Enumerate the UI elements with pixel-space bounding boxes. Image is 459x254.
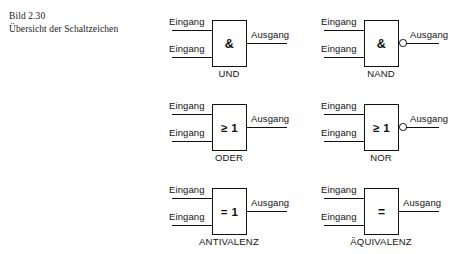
input-label-1: Eingang (321, 16, 357, 27)
input-label-2: Eingang (321, 127, 357, 138)
gate-symbol: ≥ 1 (213, 105, 246, 150)
output-wire (247, 211, 287, 212)
gate-body: ≥ 1 (212, 104, 247, 151)
gate-nand: Eingang Eingang & Ausgang NAND (304, 2, 454, 86)
gate-name-label: ODER (152, 152, 307, 163)
gate-symbol: & (213, 21, 246, 66)
input-wire-2 (324, 225, 364, 226)
input-wire-2 (172, 225, 212, 226)
input-label-1: Eingang (169, 184, 205, 195)
caption-line-title: Übersicht der Schaltzeichen (9, 23, 154, 36)
input-label-2: Eingang (169, 127, 205, 138)
input-label-2: Eingang (321, 43, 357, 54)
caption-line-number: Bild 2.30 (9, 10, 154, 23)
input-label-1: Eingang (321, 184, 357, 195)
input-label-2: Eingang (321, 211, 357, 222)
input-label-2: Eingang (169, 211, 205, 222)
gate-body: & (364, 20, 399, 67)
gate-oder: Eingang Eingang ≥ 1 Ausgang ODER (152, 86, 302, 170)
gate-nor: Eingang Eingang ≥ 1 Ausgang NOR (304, 86, 454, 170)
output-label: Ausgang (251, 29, 289, 40)
output-label: Ausgang (410, 113, 448, 124)
input-wire-1 (172, 30, 212, 31)
output-label: Ausgang (403, 197, 441, 208)
gate-symbol: & (365, 21, 398, 66)
input-wire-1 (172, 198, 212, 199)
input-wire-1 (172, 114, 212, 115)
gate-name-label: NOR (304, 152, 459, 163)
input-label-1: Eingang (169, 16, 205, 27)
gate-body: & (212, 20, 247, 67)
gate-symbol: = 1 (213, 189, 246, 234)
input-label-1: Eingang (321, 100, 357, 111)
input-label-2: Eingang (169, 43, 205, 54)
gate-symbol: = (365, 189, 398, 234)
gate-name-label: UND (152, 68, 307, 79)
gate-aequivalenz: Eingang Eingang = Ausgang ÄQUIVALENZ (304, 170, 454, 254)
input-wire-2 (172, 141, 212, 142)
output-label: Ausgang (410, 29, 448, 40)
gate-name-label: NAND (304, 68, 459, 79)
input-wire-2 (172, 57, 212, 58)
gate-antivalenz: Eingang Eingang = 1 Ausgang ANTIVALENZ (152, 170, 302, 254)
input-wire-2 (324, 141, 364, 142)
output-label: Ausgang (251, 197, 289, 208)
gate-body: = (364, 188, 399, 235)
figure-caption: Bild 2.30 Übersicht der Schaltzeichen (9, 10, 154, 35)
output-label: Ausgang (251, 113, 289, 124)
input-label-1: Eingang (169, 100, 205, 111)
gate-body: ≥ 1 (364, 104, 399, 151)
input-wire-2 (324, 57, 364, 58)
output-wire (406, 43, 439, 44)
figure-canvas: Bild 2.30 Übersicht der Schaltzeichen Ei… (0, 0, 459, 254)
gate-symbol: ≥ 1 (365, 105, 398, 150)
output-wire (406, 127, 439, 128)
gate-und: Eingang Eingang & Ausgang UND (152, 2, 302, 86)
gate-body: = 1 (212, 188, 247, 235)
gate-name-label: ÄQUIVALENZ (304, 236, 459, 247)
gate-name-label: ANTIVALENZ (152, 236, 307, 247)
output-wire (247, 127, 287, 128)
output-wire (399, 211, 439, 212)
input-wire-1 (324, 114, 364, 115)
input-wire-1 (324, 198, 364, 199)
input-wire-1 (324, 30, 364, 31)
output-wire (247, 43, 287, 44)
